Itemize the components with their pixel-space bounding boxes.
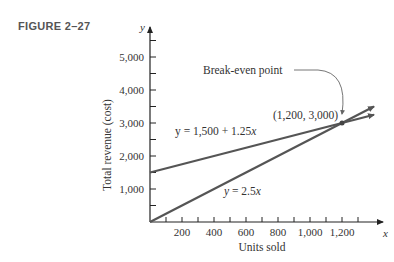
y-tick-label: 4,000 xyxy=(119,84,144,96)
x-tick-label: 400 xyxy=(206,226,223,238)
y-tick-label: 5,000 xyxy=(119,51,144,63)
y-tick-label: 1,000 xyxy=(119,183,144,195)
break-even-point xyxy=(340,121,345,126)
y-tick-label: 2,000 xyxy=(119,150,144,162)
x-tick-label: 200 xyxy=(174,226,191,238)
break-even-label: Break-even point xyxy=(203,64,283,77)
break-even-chart: y x 1,0002,0003,0004,0005,000 2004006008… xyxy=(0,0,394,262)
x-tick-label: 800 xyxy=(270,226,287,238)
revenue-line-label: y = 2.5x xyxy=(223,185,262,198)
x-tick-label: 1,000 xyxy=(298,226,323,238)
x-ticks: 2004006008001,0001,200 xyxy=(166,217,358,238)
cost-line-label: y = 1,500 + 1.25x xyxy=(175,125,257,138)
x-tick-label: 600 xyxy=(238,226,255,238)
y-axis-var: y xyxy=(139,21,145,33)
x-tick-label: 1,200 xyxy=(330,226,355,238)
break-even-coords: (1,200, 3,000) xyxy=(273,109,338,122)
x-axis-title: Units sold xyxy=(239,241,286,253)
x-axis-var: x xyxy=(382,227,388,239)
break-even-pointer xyxy=(294,70,343,114)
y-tick-label: 3,000 xyxy=(119,117,144,129)
y-axis-title: Total revenue (cost) xyxy=(101,99,114,191)
